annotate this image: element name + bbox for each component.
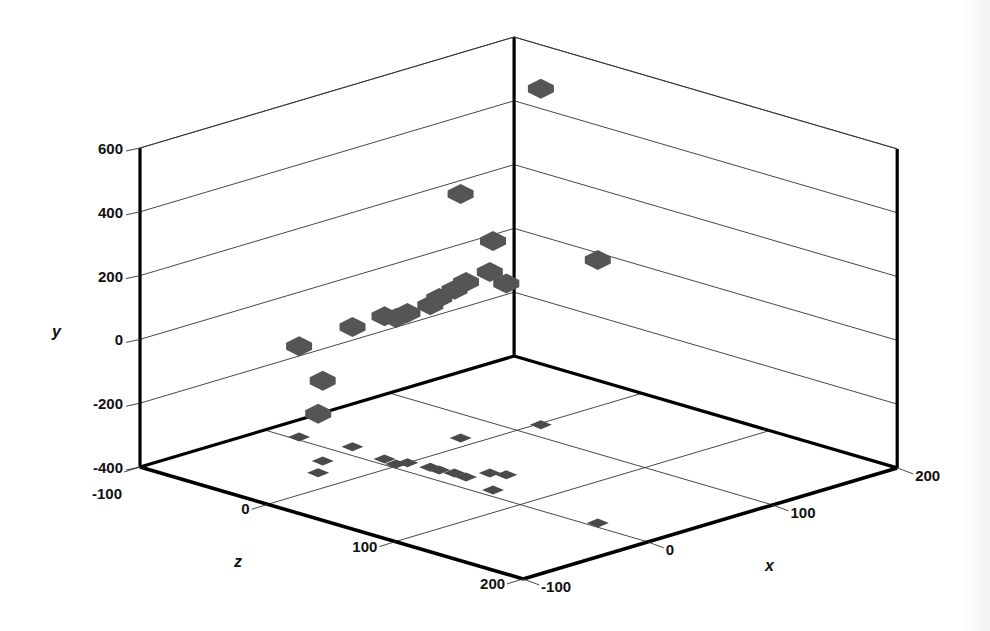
y-tick-label: 600: [98, 140, 123, 157]
z-tick-label: 100: [352, 538, 377, 555]
x-tick-label: 100: [791, 504, 816, 521]
data-point-marker: [528, 79, 554, 99]
y-tick-mark: [126, 148, 140, 151]
z-tick-mark: [507, 579, 523, 584]
y-gridline-back-right: [514, 292, 897, 404]
y-tick-label: -400: [93, 459, 123, 476]
data-point-marker: [310, 371, 336, 391]
floor-shadow-marker: [530, 420, 552, 429]
z-tick-mark: [379, 542, 395, 547]
z-gridline-floor: [395, 431, 769, 542]
y-tick-mark: [126, 403, 140, 406]
floor-shadow-marker: [341, 442, 363, 451]
y-gridline-back-right: [514, 165, 897, 277]
x-tick-label: -100: [541, 578, 571, 595]
x-tick-mark: [773, 505, 789, 511]
floor-shadow-marker: [495, 470, 517, 479]
floor-shadows: [288, 420, 609, 527]
tick-labels: -400-2000200400600-1000100200-1000100200: [92, 140, 940, 595]
floor-shadow-marker: [587, 518, 609, 527]
y-tick-mark: [126, 212, 140, 215]
wall-top-right: [514, 37, 897, 149]
y-tick-label: 0: [115, 331, 123, 348]
z-axis-edge: [140, 467, 523, 579]
data-point-marker: [305, 404, 331, 424]
floor-back-right-edge: [514, 356, 897, 468]
y-gridline-back-right: [514, 228, 897, 340]
x-gridline-floor: [389, 393, 772, 505]
z-tick-label: 200: [480, 575, 505, 592]
x-tick-label: 200: [915, 467, 940, 484]
data-point-marker: [340, 317, 366, 337]
floor-shadow-marker: [307, 468, 329, 477]
x-axis-title: x: [764, 557, 775, 574]
floor-shadow-marker: [312, 456, 334, 465]
floor-shadow-marker: [479, 468, 501, 477]
y-tick-mark: [126, 339, 140, 342]
z-tick-mark: [252, 504, 268, 509]
floor-shadow-marker: [288, 433, 310, 442]
x-tick-label: 0: [666, 541, 674, 558]
data-point-marker: [448, 184, 474, 204]
grid-lines: [140, 37, 897, 542]
wall-top-left: [140, 37, 514, 148]
edge-fade: [960, 0, 990, 631]
x-axis-edge: [523, 468, 897, 579]
data-point-marker: [585, 250, 611, 270]
axis-frame: [140, 37, 897, 579]
floor-shadow-marker: [482, 486, 504, 495]
3d-scatter-chart: -400-2000200400600-1000100200-1000100200…: [0, 0, 990, 631]
z-tick-label: -100: [92, 485, 122, 502]
y-gridline-back-right: [514, 101, 897, 213]
y-tick-mark: [126, 276, 140, 279]
x-gridline-floor: [265, 430, 648, 542]
z-tick-label: 0: [241, 500, 249, 517]
floor-shadow-marker: [450, 434, 472, 443]
y-tick-label: 200: [98, 268, 123, 285]
y-tick-label: -200: [93, 395, 123, 412]
data-point-marker: [480, 231, 506, 251]
x-tick-mark: [897, 468, 913, 474]
x-tick-mark: [523, 579, 539, 585]
x-tick-mark: [648, 542, 664, 548]
data-points: [286, 79, 611, 424]
y-gridline-back-left: [140, 165, 514, 276]
y-axis-title: y: [51, 323, 62, 340]
y-tick-label: 400: [98, 204, 123, 221]
z-axis-title: z: [233, 553, 242, 570]
